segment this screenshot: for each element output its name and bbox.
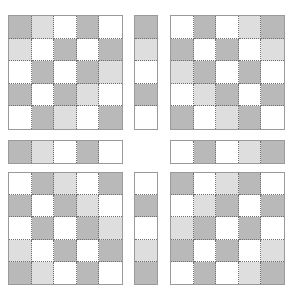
grid-cell bbox=[171, 61, 194, 84]
grid-cell bbox=[32, 173, 55, 195]
grid-cell bbox=[239, 217, 262, 239]
grid-cell bbox=[54, 173, 77, 195]
grid-cell bbox=[99, 106, 122, 129]
grid-cell bbox=[239, 240, 262, 262]
grid-cell bbox=[216, 262, 239, 284]
grid-cell bbox=[171, 173, 194, 195]
grid-cell bbox=[239, 173, 262, 195]
grid-cell bbox=[54, 195, 77, 217]
strip-cell bbox=[135, 16, 157, 39]
grid-cell bbox=[32, 195, 55, 217]
grid-cell bbox=[77, 217, 100, 239]
grid-cell bbox=[77, 61, 100, 84]
grid-cell bbox=[54, 262, 77, 284]
strip-cell bbox=[54, 141, 77, 163]
grid-cell bbox=[77, 39, 100, 62]
grid-cell bbox=[171, 16, 194, 39]
grid-cell bbox=[239, 84, 262, 107]
strip-cell bbox=[239, 141, 262, 163]
grid-cell bbox=[99, 262, 122, 284]
grid-cell bbox=[77, 84, 100, 107]
grid-cell bbox=[99, 39, 122, 62]
grid-cell bbox=[77, 173, 100, 195]
strip-cell bbox=[32, 141, 55, 163]
strip-cell bbox=[99, 141, 122, 163]
strip-cell bbox=[261, 141, 284, 163]
grid-cell bbox=[99, 61, 122, 84]
strip-cell bbox=[135, 217, 157, 239]
grid-cell bbox=[99, 195, 122, 217]
strip-cell bbox=[135, 173, 157, 195]
grid-cell bbox=[216, 195, 239, 217]
strip-cell bbox=[171, 141, 194, 163]
grid-cell bbox=[9, 84, 32, 107]
grid-cell bbox=[171, 217, 194, 239]
grid-cell bbox=[9, 262, 32, 284]
grid-cell bbox=[194, 16, 217, 39]
grid-cell bbox=[171, 195, 194, 217]
grid-cell bbox=[171, 262, 194, 284]
grid-cell bbox=[194, 106, 217, 129]
grid-cell bbox=[261, 262, 284, 284]
grid-cell bbox=[99, 16, 122, 39]
grid-cell bbox=[261, 84, 284, 107]
grid-cell bbox=[77, 16, 100, 39]
bottom-column-strip bbox=[134, 172, 158, 285]
grid-cell bbox=[239, 262, 262, 284]
grid-cell bbox=[261, 39, 284, 62]
grid-cell bbox=[261, 173, 284, 195]
grid-cell bbox=[239, 195, 262, 217]
grid-cell bbox=[9, 240, 32, 262]
grid-cell bbox=[194, 39, 217, 62]
grid-cell bbox=[194, 195, 217, 217]
top-column-strip bbox=[134, 15, 158, 130]
grid-cell bbox=[216, 61, 239, 84]
strip-cell bbox=[194, 141, 217, 163]
strip-cell bbox=[135, 106, 157, 129]
grid-cell bbox=[261, 240, 284, 262]
grid-cell bbox=[32, 262, 55, 284]
grid-cell bbox=[54, 106, 77, 129]
bottom-right-grid bbox=[170, 172, 285, 285]
strip-cell bbox=[135, 84, 157, 107]
grid-cell bbox=[239, 16, 262, 39]
grid-cell bbox=[9, 195, 32, 217]
grid-cell bbox=[54, 217, 77, 239]
grid-cell bbox=[77, 240, 100, 262]
grid-cell bbox=[54, 16, 77, 39]
grid-cell bbox=[9, 61, 32, 84]
grid-cell bbox=[171, 106, 194, 129]
grid-cell bbox=[194, 240, 217, 262]
middle-right-row-strip bbox=[170, 140, 285, 164]
grid-cell bbox=[9, 217, 32, 239]
grid-cell bbox=[216, 106, 239, 129]
grid-cell bbox=[216, 16, 239, 39]
grid-cell bbox=[77, 106, 100, 129]
grid-cell bbox=[9, 173, 32, 195]
strip-cell bbox=[9, 141, 32, 163]
grid-cell bbox=[194, 262, 217, 284]
grid-cell bbox=[216, 240, 239, 262]
grid-cell bbox=[194, 61, 217, 84]
top-right-grid bbox=[170, 15, 285, 130]
grid-cell bbox=[99, 240, 122, 262]
grid-cell bbox=[216, 173, 239, 195]
grid-cell bbox=[54, 240, 77, 262]
grid-cell bbox=[194, 217, 217, 239]
grid-cell bbox=[32, 84, 55, 107]
grid-cell bbox=[239, 106, 262, 129]
grid-cell bbox=[9, 39, 32, 62]
grid-cell bbox=[216, 39, 239, 62]
grid-cell bbox=[54, 84, 77, 107]
grid-cell bbox=[171, 39, 194, 62]
grid-cell bbox=[99, 217, 122, 239]
grid-cell bbox=[216, 84, 239, 107]
grid-cell bbox=[54, 39, 77, 62]
top-left-grid bbox=[8, 15, 123, 130]
strip-cell bbox=[135, 61, 157, 84]
grid-cell bbox=[32, 61, 55, 84]
strip-cell bbox=[135, 195, 157, 217]
grid-cell bbox=[171, 84, 194, 107]
grid-cell bbox=[261, 16, 284, 39]
grid-cell bbox=[216, 217, 239, 239]
